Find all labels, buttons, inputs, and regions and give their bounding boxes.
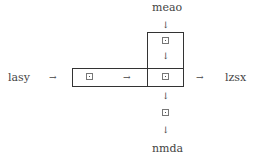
arrow-down-inner: ↓ — [162, 52, 170, 61]
arrow-down-bottom1: ↓ — [162, 92, 170, 101]
cell-square-center — [162, 73, 169, 80]
cell-square-top — [162, 37, 169, 44]
arrow-right-left: → — [49, 73, 57, 82]
cell-square-bottom — [162, 109, 169, 116]
label-top: meao — [152, 2, 182, 14]
cell-square-left — [86, 73, 93, 80]
arrow-right-inner: → — [123, 73, 131, 82]
label-left: lasy — [8, 72, 30, 84]
arrow-down-bottom2: ↓ — [162, 126, 170, 135]
arrow-down-top: ↓ — [162, 21, 170, 30]
label-right: lzsx — [225, 72, 246, 84]
label-bottom: nmda — [152, 143, 183, 155]
arrow-right-out: → — [196, 73, 204, 82]
